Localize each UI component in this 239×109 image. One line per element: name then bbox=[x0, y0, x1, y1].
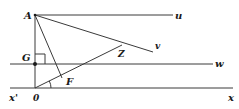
label-u: u bbox=[175, 10, 182, 21]
label-v: v bbox=[155, 41, 161, 51]
label-x-prime: x' bbox=[8, 92, 18, 103]
label-w: w bbox=[215, 58, 224, 69]
label-x: x bbox=[227, 92, 235, 103]
label-g: G bbox=[22, 52, 31, 63]
label-o: 0 bbox=[33, 93, 40, 103]
label-f: F bbox=[65, 76, 74, 87]
line-av bbox=[35, 15, 153, 52]
line-oz bbox=[35, 45, 122, 88]
label-a: A bbox=[23, 10, 32, 21]
point-a-dot bbox=[34, 14, 37, 17]
point-g-dot bbox=[33, 62, 37, 66]
right-angle-marker bbox=[35, 54, 45, 64]
label-z: Z bbox=[117, 49, 125, 59]
line-af bbox=[35, 15, 62, 78]
angle-arc bbox=[49, 81, 51, 88]
geometry-diagram: A u v Z G w F x' 0 x bbox=[0, 0, 239, 109]
